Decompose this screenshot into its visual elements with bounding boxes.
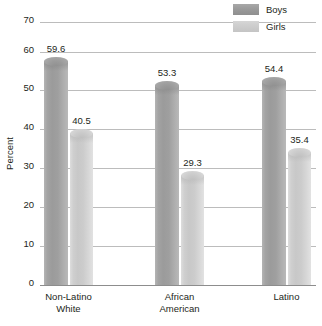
bar-value-boys-latino: 54.4 — [254, 63, 294, 74]
category-label-african-american: African American — [119, 291, 240, 315]
bar-cap-icon — [288, 148, 311, 157]
bar-cap-icon — [70, 129, 93, 138]
bar-body — [181, 175, 204, 285]
bar-boys-latino — [262, 81, 286, 285]
bar-cap-icon — [181, 171, 204, 180]
bar-cap-icon — [155, 81, 179, 90]
category-label-line-2: American — [119, 303, 240, 315]
bar-girls-african-american — [181, 175, 204, 285]
category-label-line-1: Non-Latino — [8, 291, 129, 303]
bar-value-girls-non-latino-white: 40.5 — [62, 115, 101, 126]
bar-chart: 70 60 50 40 30 20 10 0 Percent Boys Girl… — [0, 0, 322, 326]
bar-cap-icon — [262, 77, 286, 86]
bar-body — [155, 85, 179, 285]
bar-body — [44, 61, 68, 285]
bar-value-girls-latino: 35.4 — [280, 134, 319, 145]
bars-layer: 59.6 40.5 53.3 29.3 54.4 35.4 — [0, 0, 322, 326]
bar-body — [70, 133, 93, 285]
bar-value-girls-african-american: 29.3 — [173, 157, 212, 168]
category-label-line-2: White — [8, 303, 129, 315]
bar-body — [288, 152, 311, 285]
bar-boys-african-american — [155, 85, 179, 285]
bar-value-boys-african-american: 53.3 — [147, 67, 187, 78]
bar-girls-latino — [288, 152, 311, 285]
bar-boys-non-latino-white — [44, 61, 68, 285]
category-label-non-latino-white: Non-Latino White — [8, 291, 129, 315]
category-label-latino: Latino — [226, 291, 322, 303]
bar-girls-non-latino-white — [70, 133, 93, 285]
bar-value-boys-non-latino-white: 59.6 — [36, 43, 76, 54]
category-label-line-1: African — [119, 291, 240, 303]
category-label-line-1: Latino — [226, 291, 322, 303]
bar-body — [262, 81, 286, 285]
